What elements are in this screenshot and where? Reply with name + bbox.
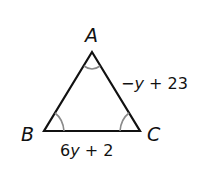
vertex-label-a: A xyxy=(83,24,98,46)
side-bc-variable: y xyxy=(69,141,80,160)
angle-arc-b xyxy=(55,113,64,131)
side-ac-variable: y xyxy=(133,74,144,93)
side-ac-prefix: − xyxy=(121,74,134,93)
side-label-bc: 6y + 2 xyxy=(60,141,113,160)
side-label-ac: −y + 23 xyxy=(121,74,188,93)
side-bc-suffix: + 2 xyxy=(80,141,114,160)
side-bc-prefix: 6 xyxy=(60,141,70,160)
vertex-label-c: C xyxy=(147,123,161,145)
triangle-diagram: A B C −y + 23 6y + 2 xyxy=(0,0,212,172)
side-ac-suffix: + 23 xyxy=(144,74,188,93)
angle-arc-c xyxy=(120,113,129,131)
angle-arc-a xyxy=(84,66,100,69)
vertex-label-b: B xyxy=(21,123,34,145)
